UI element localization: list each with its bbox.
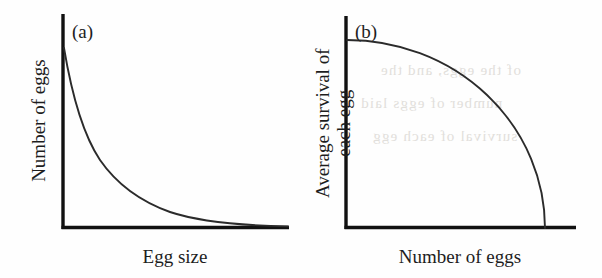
panel-b: (b) Average survival of each egg Number … (301, 0, 602, 278)
panel-a-y-axis-title: Number of eggs (28, 21, 49, 221)
figure-root: of the eggs, and the number of eggs laid… (0, 0, 602, 278)
panel-b-y-axis-title: Average survival of each egg (312, 23, 355, 223)
panel-b-y-axis-title-line-1: Average survival of (312, 23, 333, 223)
panel-b-survival-arc (347, 40, 545, 228)
panel-a-decay-curve (64, 48, 288, 226)
panel-a-x-axis-title: Egg size (62, 247, 288, 266)
panel-a: (a) Number of eggs Egg size (0, 0, 301, 278)
panel-a-letter-label: (a) (72, 22, 93, 41)
panel-b-letter-label: (b) (355, 22, 377, 41)
panel-b-y-axis-title-line-2: each egg (333, 23, 354, 223)
panel-b-x-axis-title: Number of eggs (345, 247, 575, 266)
